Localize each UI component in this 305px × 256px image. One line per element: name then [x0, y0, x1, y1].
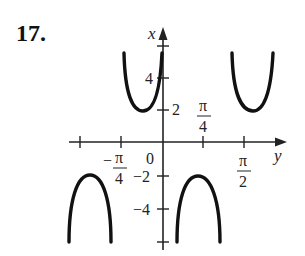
tick-label-neg-pi-over-4: − π 4: [103, 149, 127, 187]
svg-text:π: π: [199, 97, 207, 114]
branch-lower-left: [69, 175, 111, 242]
tick-label-pi-over-4: π 4: [197, 97, 211, 135]
tick-label-neg4: −4: [133, 201, 150, 218]
vertical-axis-arrow-icon: [159, 27, 168, 40]
graph: x y 4 2 −2 −4 0 π 4 − π 4 π 2: [0, 0, 305, 256]
tick-label-2: 2: [172, 101, 180, 118]
svg-text:4: 4: [115, 170, 123, 187]
vertical-axis-label: x: [147, 24, 156, 43]
svg-text:π: π: [239, 152, 247, 169]
tick-label-pi-over-2: π 2: [237, 152, 251, 190]
svg-text:4: 4: [199, 118, 207, 135]
branch-upper-right: [232, 53, 273, 111]
svg-text:π: π: [115, 149, 123, 166]
svg-text:2: 2: [239, 173, 247, 190]
branch-upper-left: [124, 53, 162, 111]
horizontal-axis-label: y: [272, 146, 282, 165]
tick-label-neg2: −2: [133, 168, 150, 185]
curves: [69, 53, 273, 242]
origin-label: 0: [146, 150, 154, 167]
branch-lower-right: [177, 176, 220, 242]
tick-label-4: 4: [145, 70, 153, 87]
svg-text:−: −: [103, 152, 112, 169]
